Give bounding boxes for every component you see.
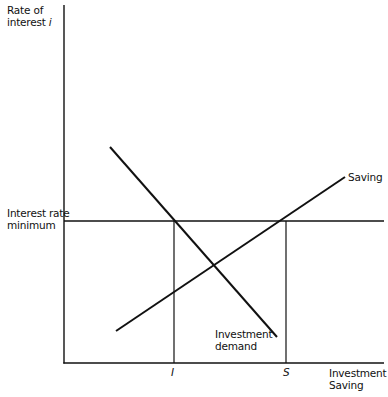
investment-demand-label: Investment demand [215,328,272,352]
interest-rate-diagram: Rate of interest i Interest rate minimum… [0,0,388,397]
y-axis-label-line2: interest i [7,16,52,28]
interest-rate-minimum-label: Interest rate minimum [7,207,70,231]
invdem-label-line1: Investment [215,328,272,340]
x-tick-investment: I [171,366,174,378]
x-axis-label: Investment Saving [329,367,386,391]
x-axis-label-line1: Investment [329,367,386,379]
y-axis-label: Rate of interest i [7,4,52,28]
y-axis-label-line1: Rate of [7,4,52,16]
invdem-label-line2: demand [215,340,272,352]
diagram-canvas [0,0,388,397]
investment-demand-curve [110,147,277,337]
saving-curve [116,177,345,331]
min-label-line1: Interest rate [7,207,70,219]
x-axis-label-line2: Saving [329,379,386,391]
min-label-line2: minimum [7,219,70,231]
saving-curve-label: Saving [348,171,382,183]
x-tick-saving: S [283,366,289,378]
